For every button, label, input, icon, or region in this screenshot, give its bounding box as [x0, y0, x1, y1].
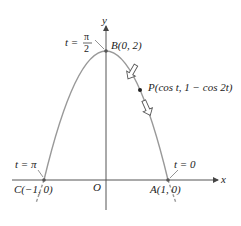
direction-arrow-down-icon: [139, 99, 155, 118]
point-c-label: C(−1, 0): [14, 183, 53, 196]
x-axis-label: x: [220, 173, 226, 185]
leader-b: [95, 40, 104, 49]
point-b-label: B(0, 2): [111, 39, 142, 52]
leader-a: [170, 170, 178, 178]
point-c: [42, 178, 46, 182]
point-b-param-num: π: [84, 31, 89, 42]
point-a: [166, 178, 170, 182]
leader-c: [38, 170, 43, 177]
point-p: [138, 88, 142, 92]
point-a-param: t = 0: [174, 158, 196, 170]
point-p-label: P(cos t, 1 − cos 2t): [147, 81, 233, 94]
point-b: [104, 49, 108, 53]
point-a-label: A(1, 0): [149, 183, 181, 196]
parametric-curve-diagram: y x O B(0, 2) t = π 2 P(cos t, 1 − cos 2…: [0, 0, 241, 226]
origin-label: O: [93, 181, 101, 193]
point-c-param: t = π: [15, 158, 37, 170]
point-b-param-den: 2: [84, 43, 89, 54]
y-axis-label: y: [101, 14, 107, 26]
point-b-param: t =: [65, 36, 78, 48]
